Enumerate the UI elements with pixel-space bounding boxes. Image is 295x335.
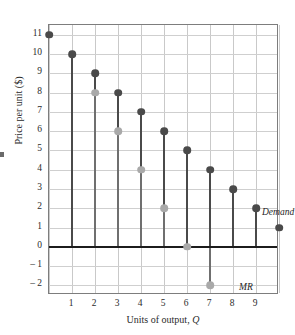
y-axis-tick-label: 11 bbox=[33, 29, 42, 39]
y-axis-tick-label: 6 bbox=[37, 125, 42, 135]
gridline-horizontal bbox=[49, 170, 277, 171]
x-axis-tick-label: 8 bbox=[230, 299, 235, 309]
y-axis-tick-label: 4 bbox=[37, 164, 42, 174]
x-axis-tick-labels: 123456789 bbox=[48, 299, 278, 313]
gridline-vertical bbox=[141, 25, 142, 293]
demand-stem bbox=[209, 170, 211, 247]
demand-data-point bbox=[229, 185, 237, 193]
demand-data-point bbox=[206, 166, 214, 174]
mr-stem bbox=[117, 131, 119, 247]
demand-data-point bbox=[252, 204, 260, 212]
x-axis-tick-label: 2 bbox=[92, 299, 97, 309]
mr-data-point bbox=[160, 204, 168, 212]
gridline-horizontal bbox=[49, 150, 277, 151]
stem-lines bbox=[49, 25, 277, 293]
mr-series-label: MR bbox=[239, 283, 253, 293]
gridline-horizontal bbox=[49, 208, 277, 209]
gridline-horizontal bbox=[49, 112, 277, 113]
mr-stem bbox=[209, 247, 211, 286]
gridline-horizontal bbox=[49, 54, 277, 55]
x-axis-title-variable: Q bbox=[192, 314, 199, 325]
y-axis-tick-label: 9 bbox=[37, 67, 42, 77]
mr-data-point bbox=[91, 89, 99, 97]
y-axis-tick-labels: 11109876543210– 1– 2 bbox=[8, 24, 42, 294]
gridline-vertical bbox=[233, 25, 234, 293]
x-axis-tick-label: 9 bbox=[253, 299, 258, 309]
x-axis-tick-label: 1 bbox=[69, 299, 74, 309]
gridline-horizontal bbox=[49, 73, 277, 74]
gridline-horizontal bbox=[49, 131, 277, 132]
demand-stem bbox=[117, 93, 119, 247]
gridline-horizontal bbox=[49, 35, 277, 36]
y-axis-tick-label: – 1 bbox=[30, 260, 42, 270]
demand-stem bbox=[163, 131, 165, 247]
y-axis-tick-label: 7 bbox=[37, 106, 42, 116]
y-axis-tick-label: – 2 bbox=[30, 280, 42, 290]
price-quantity-chart: Price per unit ($) 11109876543210– 1– 2 … bbox=[0, 0, 295, 335]
demand-data-point bbox=[114, 89, 122, 97]
demand-data-point bbox=[45, 31, 53, 39]
y-axis-tick-label: 5 bbox=[37, 145, 42, 155]
gridline-vertical bbox=[279, 25, 280, 293]
gridline-vertical bbox=[118, 25, 119, 293]
gridline-vertical bbox=[164, 25, 165, 293]
y-axis-tick-label: 0 bbox=[37, 241, 42, 251]
gridline-horizontal bbox=[49, 93, 277, 94]
demand-data-point bbox=[183, 147, 191, 155]
demand-series-label: Demand bbox=[262, 208, 294, 218]
demand-data-point bbox=[91, 69, 99, 77]
y-axis-tick-label: 2 bbox=[37, 202, 42, 212]
x-axis-tick-label: 6 bbox=[184, 299, 189, 309]
mr-stem bbox=[140, 170, 142, 247]
demand-data-point bbox=[68, 50, 76, 58]
x-axis-title: Units of output, Q bbox=[48, 314, 278, 325]
gridline-vertical bbox=[187, 25, 188, 293]
demand-stem bbox=[140, 112, 142, 247]
gridlines bbox=[49, 25, 277, 293]
x-axis-tick-label: 5 bbox=[161, 299, 166, 309]
demand-data-point bbox=[160, 127, 168, 135]
gridline-horizontal bbox=[49, 266, 277, 267]
y-axis-tick-label: 1 bbox=[37, 222, 42, 232]
y-axis-tick-label: 8 bbox=[37, 87, 42, 97]
mr-stem bbox=[163, 208, 165, 247]
plot-area: Demand MR bbox=[48, 24, 278, 294]
y-axis-tick-label: 10 bbox=[33, 48, 43, 58]
demand-stem bbox=[71, 54, 73, 247]
x-axis-tick-label: 4 bbox=[138, 299, 143, 309]
x-axis-title-text: Units of output, bbox=[127, 314, 193, 325]
gridline-vertical bbox=[95, 25, 96, 293]
demand-stem bbox=[232, 189, 234, 247]
gridline-horizontal bbox=[49, 228, 277, 229]
demand-data-point bbox=[275, 224, 283, 232]
gridline-vertical bbox=[49, 25, 50, 293]
gridline-horizontal bbox=[49, 189, 277, 190]
mr-data-point bbox=[114, 127, 122, 135]
mr-stem bbox=[94, 93, 96, 247]
mr-data-point bbox=[137, 166, 145, 174]
y-axis-tick-label: 3 bbox=[37, 183, 42, 193]
demand-stem bbox=[94, 73, 96, 247]
x-axis-tick-label: 7 bbox=[207, 299, 212, 309]
gridline-vertical bbox=[210, 25, 211, 293]
zero-baseline bbox=[49, 246, 277, 248]
gridline-vertical bbox=[72, 25, 73, 293]
x-axis-tick-label: 3 bbox=[115, 299, 120, 309]
data-point-markers bbox=[49, 25, 277, 293]
demand-stem bbox=[255, 208, 257, 247]
gridline-vertical bbox=[256, 25, 257, 293]
demand-data-point bbox=[137, 108, 145, 116]
mr-data-point bbox=[206, 282, 214, 290]
demand-stem bbox=[186, 150, 188, 246]
crop-artifact bbox=[0, 152, 4, 157]
